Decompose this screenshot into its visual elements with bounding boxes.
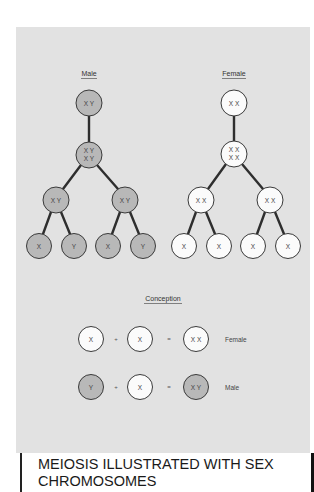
male-gamete-m3c: X xyxy=(96,234,121,259)
svg-text:X Y: X Y xyxy=(84,147,95,154)
female-cell-f0: X X xyxy=(221,90,247,116)
svg-text:Y: Y xyxy=(89,384,94,391)
female-cell-f2a: X X xyxy=(188,187,214,213)
svg-text:X: X xyxy=(217,243,222,250)
female-cell-f2b: X X xyxy=(257,187,283,213)
female-gamete-f3c: X xyxy=(241,234,266,259)
svg-text:X X: X X xyxy=(229,100,240,107)
male-cell-m2b: X Y xyxy=(112,187,138,213)
svg-text:X Y: X Y xyxy=(120,197,131,204)
plus-sign: + xyxy=(114,336,118,342)
male-cell-m1: X Y X Y xyxy=(76,142,102,168)
svg-text:X Y: X Y xyxy=(84,155,95,162)
male-tree-nodes: X Y X Y X Y X Y X Y X Y X Y xyxy=(27,90,156,259)
male-gamete-m3b: Y xyxy=(62,234,87,259)
female-cell-f1: X X X X xyxy=(221,141,247,167)
female-tree-edges xyxy=(188,116,284,234)
svg-text:X X: X X xyxy=(196,197,207,204)
svg-text:X X: X X xyxy=(229,154,240,161)
svg-text:X: X xyxy=(251,243,256,250)
caption-line-1: MEIOSIS ILLUSTRATED WITH SEX xyxy=(38,456,308,473)
svg-text:X: X xyxy=(286,243,291,250)
conception-row-female: X + X = X X Female xyxy=(79,327,248,352)
female-gamete-f3a: X xyxy=(172,234,197,259)
svg-text:X Y: X Y xyxy=(191,384,202,391)
svg-text:X: X xyxy=(138,384,143,391)
conception-row-male: Y + X = X Y Male xyxy=(79,375,240,400)
equals-sign: = xyxy=(167,336,171,342)
male-gamete-m3a: X xyxy=(27,234,52,259)
female-tree-nodes: X X X X X X X X X X X X X X xyxy=(172,90,301,259)
female-tree-label: Female xyxy=(222,70,245,77)
svg-text:Y: Y xyxy=(141,243,146,250)
svg-text:X X: X X xyxy=(229,146,240,153)
equals-sign: = xyxy=(167,384,171,390)
svg-text:X: X xyxy=(89,336,94,343)
svg-text:X Y: X Y xyxy=(84,100,95,107)
svg-text:X: X xyxy=(182,243,187,250)
svg-text:X: X xyxy=(106,243,111,250)
svg-text:X: X xyxy=(37,243,42,250)
male-tree-edges xyxy=(43,116,139,234)
svg-text:X X: X X xyxy=(191,336,202,343)
conception-label: Conception xyxy=(145,295,181,303)
male-gamete-m3d: Y xyxy=(131,234,156,259)
female-gamete-f3b: X xyxy=(207,234,232,259)
outcome-female-label: Female xyxy=(225,336,247,343)
svg-text:Y: Y xyxy=(72,243,77,250)
male-tree-label: Male xyxy=(81,70,96,77)
male-cell-m0: X Y xyxy=(76,90,102,116)
caption-text: MEIOSIS ILLUSTRATED WITH SEX CHROMOSOMES xyxy=(38,456,308,490)
figure-caption: MEIOSIS ILLUSTRATED WITH SEX CHROMOSOMES xyxy=(20,453,314,492)
male-cell-m2a: X Y xyxy=(43,187,69,213)
female-gamete-f3d: X xyxy=(276,234,301,259)
svg-text:X Y: X Y xyxy=(51,197,62,204)
caption-line-2: CHROMOSOMES xyxy=(38,473,308,490)
meiosis-diagram: Male Female X Y X Y X Y X Y X Y X Y xyxy=(0,0,314,453)
svg-text:X X: X X xyxy=(265,197,276,204)
outcome-male-label: Male xyxy=(225,384,239,391)
plus-sign: + xyxy=(114,384,118,390)
svg-text:X: X xyxy=(138,336,143,343)
